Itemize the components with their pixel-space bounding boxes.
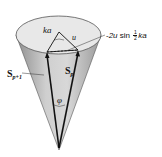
label-u: u [72, 34, 76, 42]
label-s-p: Sp [65, 66, 74, 77]
label-s-p1: Sp+1 [7, 69, 22, 80]
spin-wave-cone-diagram: ka u -2u sin 12ka Sp+1 Sp φ [0, 0, 162, 157]
label-chord-length: -2u sin 12ka [106, 30, 147, 41]
cone-top-ellipse [16, 16, 101, 54]
cone-figure [0, 0, 162, 157]
label-phi: φ [57, 96, 62, 105]
label-ka: ka [43, 26, 52, 35]
